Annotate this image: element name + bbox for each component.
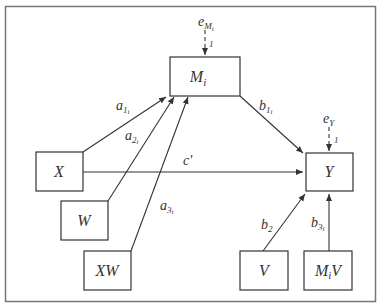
node-x-label: X bbox=[53, 163, 65, 180]
error-y-weight: 1 bbox=[334, 135, 339, 145]
path-a3-label: a3i bbox=[160, 198, 174, 216]
error-y-label: eY bbox=[323, 111, 335, 128]
path-b2-label: b2 bbox=[261, 217, 273, 234]
path-b3-label: b3i bbox=[311, 215, 325, 233]
error-m-weight: 1 bbox=[209, 39, 214, 49]
path-b1-label: b1i bbox=[259, 98, 273, 116]
node-xw-label: XW bbox=[94, 262, 120, 279]
path-c-prime-label: c′ bbox=[183, 153, 193, 168]
path-a2-label: a2i bbox=[125, 128, 139, 146]
path-b1 bbox=[240, 96, 303, 153]
path-diagram: Mi X Y W XW V MiV eMi 1 eY 1 a1i a2i a3i… bbox=[0, 0, 381, 308]
error-m-label: eMi bbox=[198, 14, 214, 33]
path-b2 bbox=[263, 194, 305, 251]
node-w-label: W bbox=[77, 212, 92, 229]
path-a1-label: a1i bbox=[116, 98, 130, 116]
